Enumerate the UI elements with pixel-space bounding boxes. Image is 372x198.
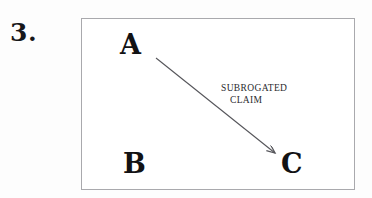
figure-canvas: 3. A B C Subrogated Claim	[0, 0, 372, 198]
arrow-label-line-2: Claim	[221, 94, 287, 106]
arrow-label-line-1: Subrogated	[221, 83, 287, 93]
arrow-label: Subrogated Claim	[221, 82, 287, 106]
node-c: C	[281, 150, 303, 177]
node-a: A	[120, 31, 141, 58]
node-b: B	[123, 150, 146, 177]
item-number: 3.	[10, 20, 37, 45]
